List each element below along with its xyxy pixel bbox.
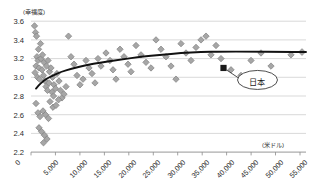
y-tick-label: 3.6 <box>4 17 24 26</box>
scatter-point <box>113 76 119 82</box>
scatter-point <box>188 57 194 63</box>
scatter-point <box>74 72 80 78</box>
scatter-point <box>268 63 274 69</box>
scatter-point <box>173 76 179 82</box>
scatter-point <box>98 63 104 69</box>
scatter-point <box>47 98 53 104</box>
scatter-point <box>33 100 39 106</box>
y-tick-label: 3.4 <box>4 36 24 45</box>
scatter-point <box>56 78 62 84</box>
scatter-point <box>248 57 254 63</box>
scatter-point <box>198 37 204 43</box>
scatter-point <box>31 23 37 29</box>
scatter-point <box>128 68 134 74</box>
scatter-point <box>63 83 69 89</box>
y-tick-label: 2.8 <box>4 92 24 101</box>
japan-marker-layer <box>220 65 226 71</box>
x-axis-ticks <box>31 152 300 155</box>
scatter-point <box>228 67 234 73</box>
scatter-chart: (幸福度) (米ドル) 3.6 3.4 3.2 3.0 2.8 2.6 2.4 … <box>0 0 315 193</box>
scatter-point <box>153 37 159 43</box>
scatter-point <box>148 65 154 71</box>
japan-callout-label: 日本 <box>249 75 266 87</box>
scatter-point <box>193 44 199 50</box>
x-axis-unit-label: (米ドル) <box>262 140 284 149</box>
scatter-point <box>89 70 95 76</box>
y-tick-label: 3.2 <box>4 54 24 63</box>
scatter-point <box>83 57 89 63</box>
y-tick-label: 3.0 <box>4 73 24 82</box>
y-tick-label: 2.2 <box>4 148 24 157</box>
y-tick-label: 2.4 <box>4 129 24 138</box>
scatter-point <box>65 33 71 39</box>
scatter-point <box>71 61 77 67</box>
scatter-point <box>117 46 123 52</box>
scatter-point <box>95 55 101 61</box>
y-tick-label: 2.6 <box>4 111 24 120</box>
scatter-point <box>143 59 149 65</box>
y-axis-unit-label: (幸福度) <box>23 7 45 16</box>
scatter-point <box>133 42 139 48</box>
scatter-point <box>110 67 116 73</box>
scatter-point <box>203 33 209 39</box>
scatter-point <box>213 42 219 48</box>
scatter-point <box>168 63 174 69</box>
japan-data-marker <box>220 65 226 71</box>
scatter-point <box>103 50 109 56</box>
scatter-point <box>77 82 83 88</box>
scatter-point <box>125 61 131 67</box>
scatter-point <box>158 46 164 52</box>
scatter-point <box>92 80 98 86</box>
scatter-point <box>80 76 86 82</box>
scatter-point <box>68 54 74 60</box>
scatter-point <box>218 55 224 61</box>
scatter-point <box>178 40 184 46</box>
